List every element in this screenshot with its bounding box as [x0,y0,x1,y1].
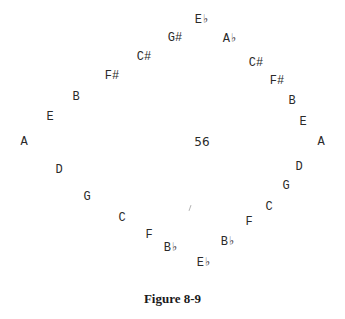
note-label: A [317,136,324,148]
note-label: B [288,95,295,107]
note-label: B [72,91,79,103]
note-label: G [282,180,289,192]
note-label: A♭ [223,33,237,45]
note-label: F [145,229,152,241]
center-number-label: 56 [194,136,209,148]
note-label: F# [105,70,119,82]
note-label: B♭ [221,236,235,248]
note-label: G [83,191,90,203]
note-label: C [265,201,272,213]
note-label: C [118,212,125,224]
note-label: B♭ [164,242,178,254]
note-label: E♭ [197,257,211,269]
note-label: F [245,216,252,228]
note-label: E [299,116,306,128]
note-label: C# [249,57,263,69]
figure-caption: Figure 8-9 [0,291,345,307]
stray-mark [189,205,192,211]
note-label: F# [270,75,284,87]
note-label: A [20,136,27,148]
note-label: C# [137,51,151,63]
note-label: D [295,161,302,173]
circle-of-fifths-diagram: 56 Figure 8-9 E♭G#A♭C#C#F#F#BBEEAADDGGCC… [0,0,345,319]
note-label: D [55,164,62,176]
note-label: E [46,111,53,123]
note-label: G# [168,32,182,44]
note-label: E♭ [195,14,209,26]
